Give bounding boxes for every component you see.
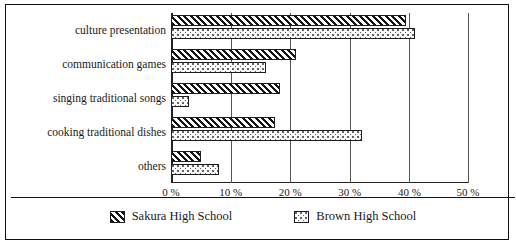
- plot-area: [171, 13, 469, 183]
- legend-label: Sakura High School: [132, 209, 233, 224]
- bar-brown: [171, 130, 362, 141]
- category-label: culture presentation: [6, 24, 166, 36]
- category-label: others: [6, 160, 166, 172]
- bar-brown: [171, 28, 415, 39]
- bar-sakura: [171, 15, 406, 26]
- bar-sakura: [171, 151, 201, 162]
- legend-label: Brown High School: [316, 209, 416, 224]
- chart-frame: culture presentation communication games…: [5, 4, 509, 240]
- bar-brown: [171, 164, 219, 175]
- legend-item-sakura: Sakura High School: [110, 209, 233, 224]
- category-label: communication games: [6, 58, 166, 70]
- bar-brown: [171, 96, 189, 107]
- bar-group-communication-games: [171, 47, 469, 81]
- bar-sakura: [171, 117, 275, 128]
- category-label: singing traditional songs: [6, 92, 166, 104]
- bar-sakura: [171, 83, 280, 94]
- category-axis-labels: culture presentation communication games…: [6, 13, 166, 183]
- bar-group-culture-presentation: [171, 13, 469, 47]
- bar-sakura: [171, 49, 296, 60]
- bar-brown: [171, 62, 266, 73]
- bar-group-others: [171, 149, 469, 183]
- legend-item-brown: Brown High School: [294, 209, 416, 224]
- bar-group-singing-traditional-songs: [171, 81, 469, 115]
- legend-swatch-icon: [110, 211, 125, 223]
- chart-legend: Sakura High School Brown High School: [11, 197, 515, 235]
- bar-group-cooking-traditional-dishes: [171, 115, 469, 149]
- legend-swatch-icon: [294, 211, 309, 223]
- category-label: cooking traditional dishes: [6, 126, 166, 138]
